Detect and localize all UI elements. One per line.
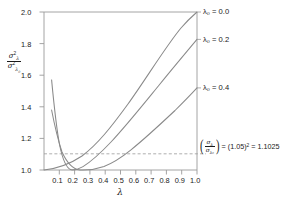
curve-lambda0-0 [44,12,197,170]
xtick-label-0-8: 0.8 [159,177,169,184]
left-paren: ( [200,139,204,153]
reference-line-annotation: ( σλ σλ₀ ) = (1.05)2 = 1.1025 [199,139,279,153]
plot-canvas [0,0,308,204]
curve-label-lambda0-0: λ₀ = 0.0 [203,8,229,16]
annot-equals-1: = [222,143,226,150]
xtick-label-0-3: 0.3 [83,177,93,184]
right-paren: ) [216,139,220,153]
y-axis-label-denominator: σ2λ0 [7,62,21,72]
ytick-label-1-8: 1.8 [21,41,31,48]
xtick-label-0-6: 0.6 [129,177,139,184]
y-den-exponent: 2 [13,61,16,66]
y-num-subscript: λ [16,56,19,61]
label-leaders [197,12,201,88]
chart-figure: 2.0 1.8 1.6 1.4 1.2 1.0 0.1 0.2 0.3 0.4 … [0,0,308,204]
xtick-label-1-0: 1.0 [190,177,200,184]
annot-result: 1.1025 [257,143,279,150]
sigma-ratio-denominator: σλ₀ [205,147,215,153]
xtick-label-0-1: 0.1 [52,177,62,184]
curve-lambda0-04 [52,88,197,170]
curve-lambda0-02 [52,39,197,169]
y-num-exponent: 2 [14,51,17,56]
xtick-label-0-9: 0.9 [175,177,185,184]
ytick-label-1-6: 1.6 [21,72,31,79]
curve-label-lambda0-02: λ₀ = 0.2 [203,36,229,44]
ytick-label-1-4: 1.4 [21,104,31,111]
xtick-label-0-7: 0.7 [144,177,154,184]
y-den-subscript: λ0 [15,67,20,72]
ytick-label-1-2: 1.2 [21,135,31,142]
xtick-label-0-5: 0.5 [114,177,124,184]
annot-equals-2: = [251,143,255,150]
y-axis-ticks [40,12,45,170]
x-axis-ticks [59,170,197,175]
ytick-label-2-0: 2.0 [21,9,31,16]
xtick-label-0-4: 0.4 [98,177,108,184]
ytick-label-1-0: 1.0 [21,167,31,174]
xtick-label-0-2: 0.2 [68,177,78,184]
annot-base: (1.05) [228,143,247,150]
y-axis-label: σ2λ σ2λ0 [3,52,25,72]
curve-label-lambda0-04: λ₀ = 0.4 [203,84,229,92]
plot-frame [44,12,197,170]
y-den-subscript-zero: 0 [18,70,20,74]
ratio-den-sub: λ₀ [210,150,214,155]
sigma-ratio-fraction: σλ σλ₀ [205,139,215,153]
x-axis-label: λ [108,187,132,197]
